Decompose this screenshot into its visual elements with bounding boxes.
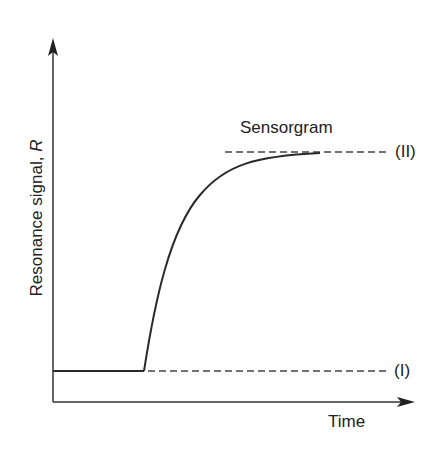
x-axis-label: Time — [328, 412, 365, 432]
level-I-label: (I) — [394, 361, 410, 381]
sensorgram-diagram — [0, 0, 446, 458]
y-axis-label: Resonance signal, R — [27, 140, 47, 297]
level-II-label: (II) — [395, 142, 416, 162]
sensorgram-curve — [144, 153, 320, 371]
sensorgram-label: Sensorgram — [240, 118, 333, 138]
